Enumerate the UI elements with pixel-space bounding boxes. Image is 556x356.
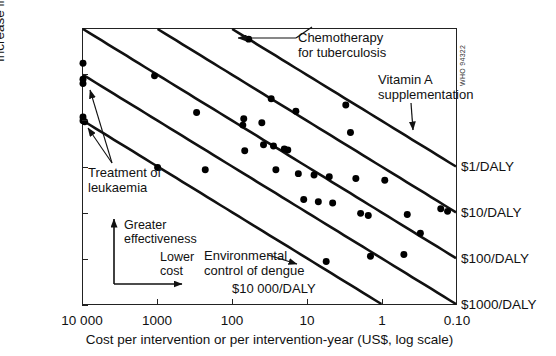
leader-dengue [268, 255, 297, 264]
direction-indicator [114, 219, 182, 284]
figure-cost-effectiveness-scatter: 1001010.10.010.0010.0001 10 000100010010… [0, 0, 556, 356]
leader-leukaemia [88, 90, 112, 163]
leader-vitamin-a [411, 103, 413, 130]
leader-chemotherapy [238, 27, 312, 38]
annotation-overlay [0, 0, 556, 356]
